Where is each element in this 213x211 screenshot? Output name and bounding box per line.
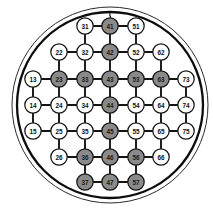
site-node-65[interactable]: 65 bbox=[153, 123, 169, 139]
site-node-circle[interactable] bbox=[102, 123, 118, 139]
site-node-55[interactable]: 55 bbox=[128, 123, 144, 139]
site-node-37[interactable]: 37 bbox=[77, 174, 93, 190]
site-node-circle[interactable] bbox=[128, 18, 144, 34]
site-node-73[interactable]: 73 bbox=[178, 71, 194, 87]
site-node-46[interactable]: 46 bbox=[102, 149, 118, 165]
site-node-66[interactable]: 66 bbox=[153, 149, 169, 165]
site-node-circle[interactable] bbox=[153, 44, 169, 60]
site-node-52[interactable]: 52 bbox=[128, 44, 144, 60]
site-node-62[interactable]: 62 bbox=[153, 44, 169, 60]
site-node-circle[interactable] bbox=[102, 149, 118, 165]
site-node-circle[interactable] bbox=[51, 97, 67, 113]
site-node-56[interactable]: 56 bbox=[128, 149, 144, 165]
site-node-42[interactable]: 42 bbox=[102, 44, 118, 60]
site-node-circle[interactable] bbox=[51, 71, 67, 87]
site-node-15[interactable]: 15 bbox=[25, 123, 41, 139]
site-node-75[interactable]: 75 bbox=[178, 123, 194, 139]
site-node-circle[interactable] bbox=[128, 44, 144, 60]
site-node-43[interactable]: 43 bbox=[102, 71, 118, 87]
site-node-circle[interactable] bbox=[153, 97, 169, 113]
site-node-circle[interactable] bbox=[153, 123, 169, 139]
site-node-31[interactable]: 31 bbox=[77, 18, 93, 34]
site-node-circle[interactable] bbox=[153, 149, 169, 165]
site-node-circle[interactable] bbox=[128, 174, 144, 190]
site-node-41[interactable]: 41 bbox=[102, 18, 118, 34]
site-node-45[interactable]: 45 bbox=[102, 123, 118, 139]
site-node-circle[interactable] bbox=[51, 44, 67, 60]
site-node-63[interactable]: 63 bbox=[153, 71, 169, 87]
site-node-74[interactable]: 74 bbox=[178, 97, 194, 113]
site-node-circle[interactable] bbox=[153, 71, 169, 87]
site-node-circle[interactable] bbox=[77, 123, 93, 139]
site-node-circle[interactable] bbox=[102, 44, 118, 60]
site-node-57[interactable]: 57 bbox=[128, 174, 144, 190]
site-node-circle[interactable] bbox=[25, 71, 41, 87]
site-node-13[interactable]: 13 bbox=[25, 71, 41, 87]
site-node-circle[interactable] bbox=[25, 97, 41, 113]
wafer-map-figure: 3141512232425262132333435363731424344454… bbox=[0, 0, 213, 211]
site-node-circle[interactable] bbox=[128, 97, 144, 113]
site-node-14[interactable]: 14 bbox=[25, 97, 41, 113]
site-node-64[interactable]: 64 bbox=[153, 97, 169, 113]
site-node-circle[interactable] bbox=[51, 123, 67, 139]
site-node-33[interactable]: 33 bbox=[77, 71, 93, 87]
site-node-circle[interactable] bbox=[178, 123, 194, 139]
site-node-32[interactable]: 32 bbox=[77, 44, 93, 60]
site-node-circle[interactable] bbox=[102, 97, 118, 113]
site-node-circle[interactable] bbox=[128, 123, 144, 139]
site-node-25[interactable]: 25 bbox=[51, 123, 67, 139]
wafer-map-svg: 3141512232425262132333435363731424344454… bbox=[0, 0, 213, 211]
site-node-47[interactable]: 47 bbox=[102, 174, 118, 190]
site-node-35[interactable]: 35 bbox=[77, 123, 93, 139]
site-node-44[interactable]: 44 bbox=[102, 97, 118, 113]
site-node-circle[interactable] bbox=[25, 123, 41, 139]
site-nodes-group: 3141512232425262132333435363731424344454… bbox=[25, 18, 194, 190]
site-node-circle[interactable] bbox=[77, 149, 93, 165]
site-node-36[interactable]: 36 bbox=[77, 149, 93, 165]
site-node-26[interactable]: 26 bbox=[51, 149, 67, 165]
site-node-circle[interactable] bbox=[77, 97, 93, 113]
site-node-54[interactable]: 54 bbox=[128, 97, 144, 113]
site-node-34[interactable]: 34 bbox=[77, 97, 93, 113]
site-node-circle[interactable] bbox=[102, 71, 118, 87]
site-node-51[interactable]: 51 bbox=[128, 18, 144, 34]
site-node-circle[interactable] bbox=[77, 174, 93, 190]
site-node-circle[interactable] bbox=[178, 71, 194, 87]
site-node-circle[interactable] bbox=[102, 174, 118, 190]
site-node-circle[interactable] bbox=[178, 97, 194, 113]
site-node-circle[interactable] bbox=[77, 18, 93, 34]
site-node-circle[interactable] bbox=[51, 149, 67, 165]
site-node-circle[interactable] bbox=[102, 18, 118, 34]
site-node-53[interactable]: 53 bbox=[128, 71, 144, 87]
site-node-22[interactable]: 22 bbox=[51, 44, 67, 60]
site-node-23[interactable]: 23 bbox=[51, 71, 67, 87]
site-node-circle[interactable] bbox=[77, 44, 93, 60]
site-node-circle[interactable] bbox=[128, 149, 144, 165]
site-node-circle[interactable] bbox=[77, 71, 93, 87]
site-node-circle[interactable] bbox=[128, 71, 144, 87]
site-node-24[interactable]: 24 bbox=[51, 97, 67, 113]
